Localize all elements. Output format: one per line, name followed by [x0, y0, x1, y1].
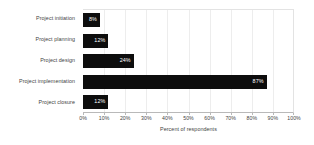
- x-tick-label: 0%: [79, 116, 87, 121]
- category-label: Project planning: [36, 37, 75, 42]
- x-tick-label: 90%: [268, 116, 279, 121]
- x-axis-title: Percent of respondents: [83, 127, 294, 132]
- category-row: Project implementation: [0, 72, 79, 92]
- x-tick-label: 20%: [120, 116, 131, 121]
- bar-slot: 12%: [83, 31, 293, 51]
- bar-value-label: 24%: [120, 58, 131, 63]
- category-row: Project design: [0, 51, 79, 71]
- bar-slot: 87%: [83, 72, 293, 92]
- category-label: Project implementation: [19, 79, 75, 84]
- x-tick-label: 40%: [162, 116, 173, 121]
- bar[interactable]: 12%: [83, 95, 108, 109]
- x-tick-label: 100%: [287, 116, 300, 121]
- x-tick-label: 70%: [225, 116, 236, 121]
- category-label: Project initiation: [36, 16, 75, 21]
- x-tick-label: 10%: [99, 116, 110, 121]
- bar[interactable]: 87%: [83, 75, 267, 89]
- x-tick-label: 80%: [247, 116, 258, 121]
- category-row: Project closure: [0, 93, 79, 113]
- x-tick-label: 50%: [183, 116, 194, 121]
- bar-value-label: 12%: [94, 99, 105, 104]
- bar-slot: 24%: [83, 51, 293, 71]
- bar[interactable]: 8%: [83, 13, 100, 27]
- plot-area: 8% 12% 24% 87% 12%: [83, 9, 294, 113]
- category-row: Project planning: [0, 30, 79, 50]
- bar[interactable]: 12%: [83, 34, 108, 48]
- category-label: Project design: [40, 58, 75, 63]
- x-tick-label: 60%: [204, 116, 215, 121]
- category-label: Project closure: [39, 100, 75, 105]
- bar-value-label: 87%: [253, 79, 264, 84]
- category-row: Project initiation: [0, 9, 79, 29]
- x-tick-label: 30%: [141, 116, 152, 121]
- bar-value-label: 12%: [94, 38, 105, 43]
- bars-layer: 8% 12% 24% 87% 12%: [83, 10, 293, 112]
- bar-chart-figure: Project initiation Project planning Proj…: [0, 0, 314, 145]
- bar-slot: 8%: [83, 10, 293, 30]
- x-axis: 0%10%20%30%40%50%60%70%80%90%100%: [83, 113, 294, 127]
- category-axis: Project initiation Project planning Proj…: [0, 9, 79, 113]
- bar-slot: 12%: [83, 92, 293, 112]
- bar[interactable]: 24%: [83, 54, 134, 68]
- bar-value-label: 8%: [89, 17, 97, 22]
